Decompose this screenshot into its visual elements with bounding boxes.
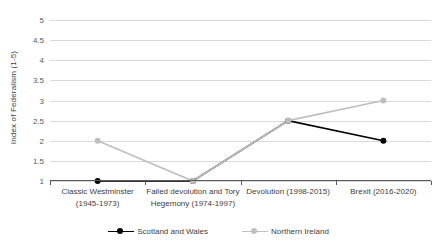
legend-label: Northern Ireland	[271, 227, 329, 236]
legend-entry[interactable]: Northern Ireland	[242, 226, 329, 236]
y-axis-tick-label: 1	[40, 177, 44, 186]
legend-label: Scotland and Wales	[137, 227, 208, 236]
data-point-marker	[190, 178, 196, 184]
x-axis-category-labels: Classic Westminster(1945-1973)Failed dev…	[50, 186, 431, 220]
y-axis-tick-label: 4	[40, 56, 44, 65]
x-axis-tick-mark	[50, 181, 51, 185]
y-axis-tick-label: 3.5	[33, 76, 44, 85]
chart-legend: Scotland and WalesNorthern Ireland	[0, 222, 437, 240]
line-chart: Index of Federalism (1-5) 11.522.533.544…	[0, 0, 437, 247]
x-axis-category-label-line: (1945-1973)	[61, 198, 133, 210]
y-axis-tick-label: 2.5	[33, 116, 44, 125]
x-axis-category-label: Devolution (1998-2015)	[246, 186, 330, 198]
legend-entry[interactable]: Scotland and Wales	[108, 226, 208, 236]
y-axis-tick-label: 3	[40, 96, 44, 105]
x-axis-tick-mark	[241, 181, 242, 185]
x-axis-category-label: Classic Westminster(1945-1973)	[61, 186, 133, 210]
y-axis-tick-label: 2	[40, 136, 44, 145]
x-axis-category-label: Failed devolution and ToryHegemony (1974…	[146, 186, 239, 210]
x-axis-category-label-line: Hegemony (1974-1997)	[146, 198, 239, 210]
x-axis-category-label-line: Failed devolution and Tory	[146, 186, 239, 198]
x-axis-category-label-line: Classic Westminster	[61, 186, 133, 198]
x-axis-tick-mark	[431, 181, 432, 185]
x-axis-category-label-line: Brexit (2016-2020)	[350, 186, 416, 198]
data-point-marker	[95, 178, 101, 184]
y-axis-tick-label: 4.5	[33, 36, 44, 45]
legend-marker-icon	[251, 228, 257, 234]
y-axis-tick-label: 5	[40, 16, 44, 25]
x-axis-category-label-line: Devolution (1998-2015)	[246, 186, 330, 198]
series-lines	[50, 20, 431, 181]
legend-swatch	[242, 226, 268, 236]
plot-area	[50, 20, 431, 181]
legend-swatch	[108, 226, 134, 236]
data-point-marker	[95, 138, 101, 144]
y-axis-title-text: Index of Federalism (1-5)	[10, 51, 19, 144]
legend-marker-icon	[117, 228, 123, 234]
x-axis-category-label: Brexit (2016-2020)	[350, 186, 416, 198]
data-point-marker	[380, 138, 386, 144]
data-point-marker	[285, 118, 291, 124]
x-axis-tick-mark	[145, 181, 146, 185]
x-axis-tick-mark	[336, 181, 337, 185]
y-axis-tick-label: 1.5	[33, 156, 44, 165]
y-axis-tick-labels: 11.522.533.544.55	[24, 0, 48, 195]
data-point-marker	[380, 98, 386, 104]
series-line	[98, 101, 384, 182]
